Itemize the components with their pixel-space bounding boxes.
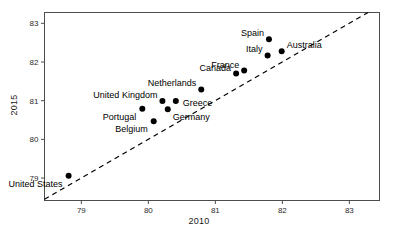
data-point: [159, 98, 165, 104]
y-tick-label: 83: [20, 19, 39, 28]
data-point-label: Greece: [183, 99, 213, 108]
data-point-label: France: [0, 61, 239, 70]
data-point-label: Spain: [0, 29, 264, 38]
data-point: [173, 98, 179, 104]
y-tick-label: 80: [20, 135, 39, 144]
data-point: [139, 106, 145, 112]
x-tick-label: 80: [144, 206, 153, 215]
data-point-label: Germany: [173, 113, 210, 122]
data-point: [151, 118, 157, 124]
x-tick-label: 83: [345, 206, 354, 215]
data-point: [66, 173, 72, 179]
data-point: [165, 106, 171, 112]
x-tick-label: 82: [278, 206, 287, 215]
scatter-plot-figure: 2010 2015 79808182837980818283 United St…: [0, 0, 398, 236]
data-point-label: United States: [0, 180, 63, 189]
x-axis-title: 2010: [0, 216, 398, 226]
data-point-label: Belgium: [0, 125, 148, 134]
data-point: [279, 48, 285, 54]
data-point-label: Australia: [287, 41, 322, 50]
data-point: [265, 52, 271, 58]
data-point-label: Portugal: [0, 113, 136, 122]
data-point-label: Netherlands: [0, 79, 196, 88]
data-point: [266, 36, 272, 42]
data-point-label: Italy: [0, 45, 263, 54]
data-point: [233, 71, 239, 77]
data-point-label: United Kingdom: [0, 91, 157, 100]
data-point: [198, 86, 204, 92]
data-point: [241, 68, 247, 74]
x-tick-label: 79: [77, 206, 86, 215]
x-tick-label: 81: [211, 206, 220, 215]
